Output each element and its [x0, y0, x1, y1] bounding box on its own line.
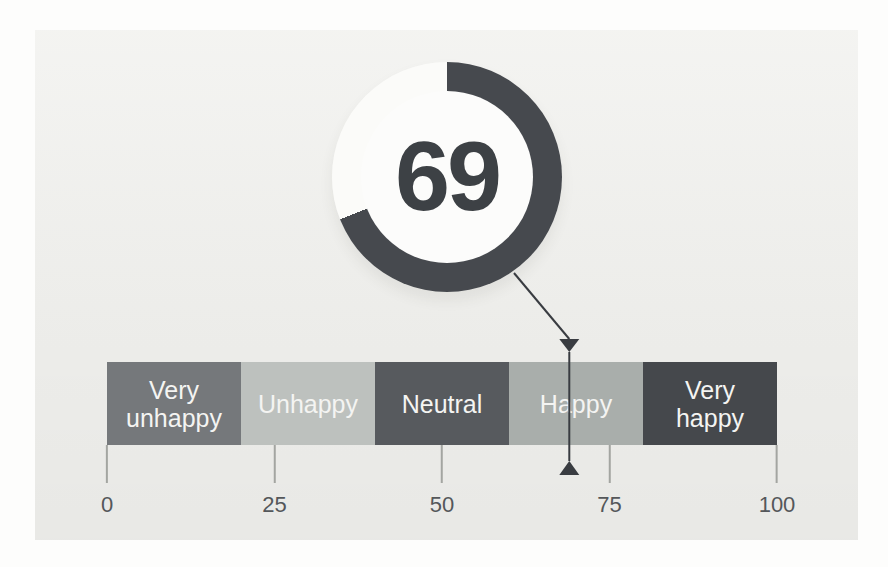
band-label: Very unhappy — [115, 376, 233, 432]
gauge-score-value: 69 — [395, 126, 499, 225]
gauge-ring: 69 — [332, 62, 562, 292]
tick-label: 100 — [759, 492, 796, 518]
band-label: Unhappy — [258, 390, 358, 418]
satisfaction-band-bar: Very unhappy Unhappy Neutral Happy Very … — [107, 362, 777, 445]
tick-line — [441, 445, 443, 483]
band-label: Neutral — [402, 390, 483, 418]
scale-axis: 0 25 50 75 100 — [107, 445, 777, 540]
chart-page: 69 Very unhappy Unhappy Neutral Happy — [35, 30, 858, 540]
axis-tick-0: 0 — [101, 445, 113, 518]
marker-arrow-down-icon — [559, 339, 579, 352]
gauge-ring-inner: 69 — [361, 91, 533, 263]
axis-tick-50: 50 — [430, 445, 454, 518]
tick-label: 50 — [430, 492, 454, 518]
screenshot-canvas: 69 Very unhappy Unhappy Neutral Happy — [0, 0, 888, 567]
band-label: Happy — [540, 390, 612, 418]
band-very-happy: Very happy — [643, 362, 777, 445]
tick-label: 75 — [597, 492, 621, 518]
tick-line — [273, 445, 275, 483]
leader-line — [514, 273, 569, 339]
band-neutral: Neutral — [375, 362, 509, 445]
band-very-unhappy: Very unhappy — [107, 362, 241, 445]
tick-line — [776, 445, 778, 483]
tick-line — [608, 445, 610, 483]
axis-tick-75: 75 — [597, 445, 621, 518]
tick-label: 0 — [101, 492, 113, 518]
band-label: Very happy — [651, 376, 769, 432]
tick-label: 25 — [262, 492, 286, 518]
tick-line — [106, 445, 108, 483]
band-unhappy: Unhappy — [241, 362, 375, 445]
band-happy: Happy — [509, 362, 643, 445]
axis-tick-25: 25 — [262, 445, 286, 518]
axis-tick-100: 100 — [759, 445, 796, 518]
